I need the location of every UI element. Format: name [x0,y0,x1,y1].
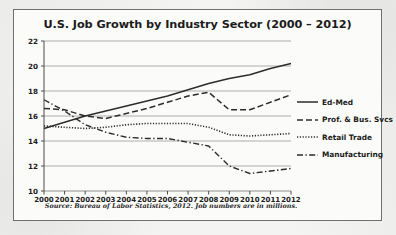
y-axis-tick-label: 14 [22,137,38,146]
legend-label: Manufacturing [322,150,383,159]
gridlines [44,41,291,191]
legend-line-swatch-icon [297,133,318,141]
y-axis-tick-label: 18 [22,87,38,96]
series-line-manufacturing [44,100,291,174]
y-axis-tick-label: 20 [22,62,38,71]
legend-item[interactable]: Retail Trade [297,130,381,144]
legend-line-swatch-icon [297,98,318,106]
y-axis-tick-label: 16 [22,112,38,121]
y-axis-tick-label: 22 [22,37,38,46]
axes [41,41,44,191]
series-line-ed-med [44,64,291,129]
source-note: Source: Bureau of Labor Statistics, 2012… [36,202,306,210]
chart-legend: Ed-MedProf. & Bus. SvcsRetail TradeManuf… [297,95,381,165]
data-series-group [44,64,291,174]
legend-label: Retail Trade [322,133,372,142]
legend-item[interactable]: Manufacturing [297,148,381,162]
legend-line-swatch-icon [297,151,318,159]
legend-label: Ed-Med [322,98,353,107]
legend-item[interactable]: Prof. & Bus. Svcs [297,113,381,127]
y-axis-tick-label: 10 [22,187,38,196]
chart-frame: U.S. Job Growth by Industry Sector (2000… [13,9,382,221]
series-line-retail-trade [44,124,291,137]
y-axis-tick-label: 12 [22,162,38,171]
legend-line-swatch-icon [297,116,318,124]
legend-label: Prof. & Bus. Svcs [322,115,393,124]
legend-item[interactable]: Ed-Med [297,95,381,109]
